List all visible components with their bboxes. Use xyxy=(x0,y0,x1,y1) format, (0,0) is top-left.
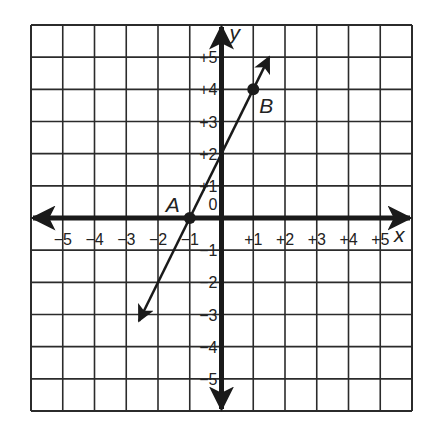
y-tick-label: +4 xyxy=(199,81,217,98)
y-tick-label: −4 xyxy=(199,339,217,356)
point-a xyxy=(184,212,196,224)
y-tick-label: +2 xyxy=(199,146,217,163)
origin-label: 0 xyxy=(209,196,218,213)
y-tick-label: +3 xyxy=(199,114,217,131)
x-tick-label: +4 xyxy=(339,231,357,248)
x-axis-label: x xyxy=(393,223,406,246)
x-tick-label: +5 xyxy=(371,231,389,248)
axes: xy xyxy=(33,21,410,409)
y-tick-label: +5 xyxy=(199,49,217,66)
y-tick-label: −3 xyxy=(199,307,217,324)
point-b xyxy=(247,83,259,95)
point-label-a: A xyxy=(164,193,180,216)
x-tick-label: −3 xyxy=(117,231,135,248)
coordinate-plane: xy −5−4−3−2−1+1+2+3+4+5+5+4+3+2+10−1−2−3… xyxy=(0,0,432,436)
y-axis-label: y xyxy=(228,21,242,44)
point-label-b: B xyxy=(259,94,273,117)
x-tick-label: +3 xyxy=(308,231,326,248)
x-tick-label: +1 xyxy=(244,231,262,248)
y-tick-label: −2 xyxy=(199,274,217,291)
x-tick-label: −2 xyxy=(149,231,167,248)
x-tick-label: −4 xyxy=(85,231,103,248)
y-tick-label: −5 xyxy=(199,371,217,388)
x-tick-label: −5 xyxy=(54,231,72,248)
y-tick-label: −1 xyxy=(199,242,217,259)
x-tick-label: +2 xyxy=(276,231,294,248)
